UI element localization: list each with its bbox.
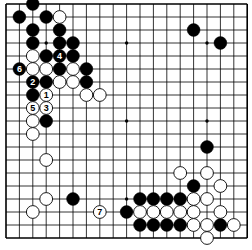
white-stone xyxy=(201,232,214,245)
black-stone-icon xyxy=(80,63,93,76)
black-stone-icon xyxy=(40,115,53,128)
black-stone-icon xyxy=(174,219,187,232)
white-stone-icon xyxy=(80,89,93,102)
white-stone-icon xyxy=(174,167,187,180)
black-stone xyxy=(134,219,147,232)
black-stone-icon xyxy=(53,24,66,37)
black-stone: 6 xyxy=(13,63,26,76)
black-stone xyxy=(214,37,227,50)
white-stone-icon xyxy=(227,219,240,232)
black-stone-icon xyxy=(160,219,173,232)
white-stone-icon xyxy=(187,219,200,232)
white-stone xyxy=(187,206,200,219)
white-stone-icon xyxy=(214,180,227,193)
white-stone-icon xyxy=(201,219,214,232)
black-stone xyxy=(214,219,227,232)
black-stone: 2 xyxy=(26,76,39,89)
black-stone-icon xyxy=(160,193,173,206)
white-stone xyxy=(26,63,39,76)
black-stone xyxy=(53,37,66,50)
star-point-icon xyxy=(125,197,128,200)
black-stone-icon xyxy=(26,24,39,37)
white-stone: 7 xyxy=(93,206,106,219)
black-stone-icon xyxy=(187,180,200,193)
black-stone xyxy=(80,63,93,76)
move-number-label: 4 xyxy=(57,51,62,61)
white-stone-icon xyxy=(40,63,53,76)
black-stone-icon xyxy=(53,37,66,50)
go-board-diagram: 4621537 xyxy=(0,0,252,250)
white-stone-icon xyxy=(201,232,214,245)
white-stone-icon xyxy=(134,206,147,219)
white-stone-icon xyxy=(26,128,39,141)
black-stone xyxy=(26,89,39,102)
white-stone-icon xyxy=(67,63,80,76)
white-stone xyxy=(201,167,214,180)
white-stone xyxy=(40,154,53,167)
move-number-label: 5 xyxy=(30,103,35,113)
black-stone-icon xyxy=(40,76,53,89)
white-stone-icon xyxy=(93,89,106,102)
white-stone xyxy=(174,206,187,219)
white-stone xyxy=(53,76,66,89)
white-stone-icon xyxy=(40,193,53,206)
move-number-label: 3 xyxy=(44,103,49,113)
black-stone xyxy=(13,11,26,24)
white-stone-icon xyxy=(174,206,187,219)
white-stone-icon xyxy=(26,63,39,76)
star-point-icon xyxy=(45,41,48,44)
white-stone xyxy=(26,50,39,63)
black-stone-icon xyxy=(40,50,53,63)
black-stone-icon xyxy=(120,206,133,219)
black-stone xyxy=(80,76,93,89)
black-stone xyxy=(201,141,214,154)
black-stone-icon xyxy=(147,219,160,232)
black-stone xyxy=(53,24,66,37)
white-stone xyxy=(214,206,227,219)
white-stone xyxy=(80,89,93,102)
black-stone-icon xyxy=(214,37,227,50)
black-stone-icon xyxy=(67,50,80,63)
white-stone xyxy=(201,193,214,206)
white-stone xyxy=(201,219,214,232)
white-stone xyxy=(160,206,173,219)
black-stone-icon xyxy=(26,89,39,102)
move-number-label: 7 xyxy=(97,207,102,217)
black-stone-icon xyxy=(53,63,66,76)
white-stone xyxy=(93,89,106,102)
white-stone: 3 xyxy=(40,102,53,115)
black-stone-icon xyxy=(67,193,80,206)
star-point-icon xyxy=(125,41,128,44)
black-stone-icon xyxy=(201,141,214,154)
white-stone-icon xyxy=(53,11,66,24)
black-stone xyxy=(147,193,160,206)
black-stone xyxy=(40,11,53,24)
black-stone-icon xyxy=(134,193,147,206)
black-stone-icon xyxy=(13,11,26,24)
black-stone xyxy=(160,219,173,232)
white-stone xyxy=(187,219,200,232)
white-stone-icon xyxy=(147,206,160,219)
white-stone xyxy=(147,206,160,219)
black-stone-icon xyxy=(40,11,53,24)
black-stone-icon xyxy=(187,24,200,37)
black-stone xyxy=(26,0,39,10)
white-stone xyxy=(67,63,80,76)
black-stone xyxy=(40,50,53,63)
move-number-label: 2 xyxy=(30,77,35,87)
white-stone xyxy=(26,115,39,128)
white-stone-icon xyxy=(40,154,53,167)
white-stone xyxy=(187,193,200,206)
black-stone xyxy=(67,50,80,63)
black-stone xyxy=(174,219,187,232)
white-stone xyxy=(26,206,39,219)
move-number-label: 6 xyxy=(17,64,22,74)
star-point-icon xyxy=(125,119,128,122)
white-stone xyxy=(134,206,147,219)
white-stone xyxy=(26,128,39,141)
black-stone xyxy=(174,193,187,206)
black-stone-icon xyxy=(134,219,147,232)
white-stone-icon xyxy=(26,50,39,63)
black-stone xyxy=(187,180,200,193)
black-stone xyxy=(134,193,147,206)
